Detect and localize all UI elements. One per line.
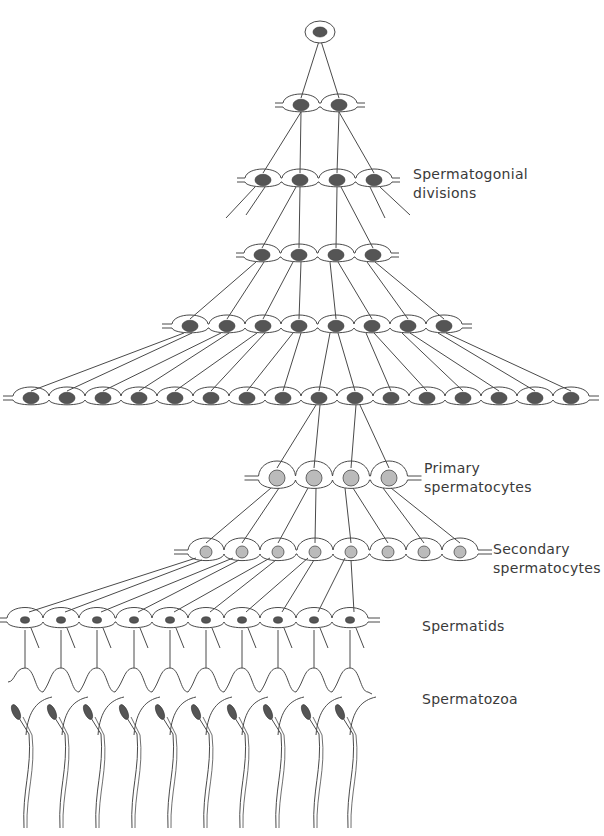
- sperm-tail: [235, 718, 246, 828]
- nucleus: [382, 546, 394, 558]
- spermatogonia-8-row: [162, 315, 472, 333]
- sperm-head: [261, 703, 274, 720]
- nucleus: [293, 99, 309, 111]
- spermatozoon: [45, 697, 88, 828]
- sperm-head: [9, 703, 22, 720]
- spermatozoa-row: [8, 668, 376, 828]
- nucleus: [306, 470, 322, 486]
- nucleus: [203, 392, 219, 404]
- lineage-connectors: [25, 38, 571, 668]
- nucleus: [239, 392, 255, 404]
- nucleus: [313, 27, 327, 37]
- spermatozoon: [117, 697, 160, 828]
- nucleus: [400, 320, 416, 332]
- nucleus: [236, 546, 248, 558]
- nucleus: [491, 392, 507, 404]
- sperm-head: [81, 703, 94, 720]
- nucleus: [527, 392, 543, 404]
- nucleus: [309, 546, 321, 558]
- label-primary-spermatocytes: Primary spermatocytes: [424, 459, 532, 497]
- spermatids-row: [0, 608, 380, 628]
- nucleus: [130, 617, 139, 623]
- label-line: Primary: [424, 459, 532, 478]
- nucleus: [366, 174, 382, 186]
- nucleus: [436, 320, 452, 332]
- nucleus: [255, 174, 271, 186]
- spermatogonia-4a-row: [237, 169, 400, 187]
- nucleus: [182, 320, 198, 332]
- spermatogonia-2-row: [275, 94, 365, 112]
- spermatozoon: [81, 697, 124, 828]
- nucleus: [131, 392, 147, 404]
- label-secondary-spermatocytes: Secondary spermatocytes: [493, 540, 601, 578]
- nucleus: [291, 249, 307, 261]
- sperm-head: [117, 703, 130, 720]
- nucleus: [454, 546, 466, 558]
- nucleus: [381, 470, 397, 486]
- label-line: Spermatids: [422, 617, 505, 636]
- nucleus: [328, 320, 344, 332]
- nucleus: [23, 392, 39, 404]
- spermatozoon: [333, 697, 376, 828]
- nucleus: [202, 617, 211, 623]
- label-line: Secondary: [493, 540, 601, 559]
- sperm-tail: [309, 718, 320, 828]
- nucleus: [200, 546, 212, 558]
- label-line: Spermatogonial: [413, 165, 528, 184]
- nucleus: [272, 546, 284, 558]
- nucleus: [93, 617, 102, 623]
- nucleus: [269, 470, 285, 486]
- spermatogonia-16-row: [3, 387, 599, 405]
- nucleus: [21, 617, 30, 623]
- label-spermatids: Spermatids: [422, 617, 505, 636]
- label-spermatogonial-divisions: Spermatogonial divisions: [413, 165, 528, 203]
- nucleus: [219, 320, 235, 332]
- sperm-head: [299, 703, 312, 720]
- nucleus: [166, 617, 175, 623]
- spermatozoon: [299, 697, 342, 828]
- sperm-tail: [55, 718, 66, 828]
- nucleus: [255, 320, 271, 332]
- sperm-head: [153, 703, 166, 720]
- spermatozoon: [189, 697, 232, 828]
- spermatogonia-1-row: [305, 21, 335, 43]
- nucleus: [275, 392, 291, 404]
- spermatozoon: [153, 697, 196, 828]
- nucleus: [291, 320, 307, 332]
- nucleus: [383, 392, 399, 404]
- nucleus: [167, 392, 183, 404]
- sperm-head: [189, 703, 202, 720]
- nucleus: [329, 174, 345, 186]
- spermatozoon: [225, 697, 268, 828]
- nucleus: [455, 392, 471, 404]
- sperm-tail: [199, 718, 210, 828]
- label-spermatozoa: Spermatozoa: [422, 690, 518, 709]
- nucleus: [238, 617, 247, 623]
- nucleus: [343, 470, 359, 486]
- label-line: Spermatozoa: [422, 690, 518, 709]
- sperm-tail: [271, 718, 282, 828]
- spermatozoon: [9, 697, 52, 828]
- label-line: spermatocytes: [493, 559, 601, 578]
- nucleus: [57, 617, 66, 623]
- sperm-tail: [127, 718, 138, 828]
- sperm-tail: [91, 718, 102, 828]
- nucleus: [292, 174, 308, 186]
- nucleus: [95, 392, 111, 404]
- nucleus: [365, 249, 381, 261]
- nucleus: [59, 392, 75, 404]
- primary-spermatocytes-row: [245, 461, 422, 488]
- secondary-spermatocytes-row: [174, 538, 492, 561]
- label-line: spermatocytes: [424, 478, 532, 497]
- spermatozoon: [261, 697, 304, 828]
- nucleus: [331, 99, 347, 111]
- nucleus: [310, 617, 319, 623]
- nucleus: [274, 617, 283, 623]
- spermatogonia-4b-row: [236, 244, 399, 262]
- nucleus: [345, 546, 357, 558]
- sperm-tail: [163, 718, 174, 828]
- sperm-head: [225, 703, 238, 720]
- nucleus: [563, 392, 579, 404]
- sperm-tail: [343, 718, 354, 828]
- sperm-head: [333, 703, 346, 720]
